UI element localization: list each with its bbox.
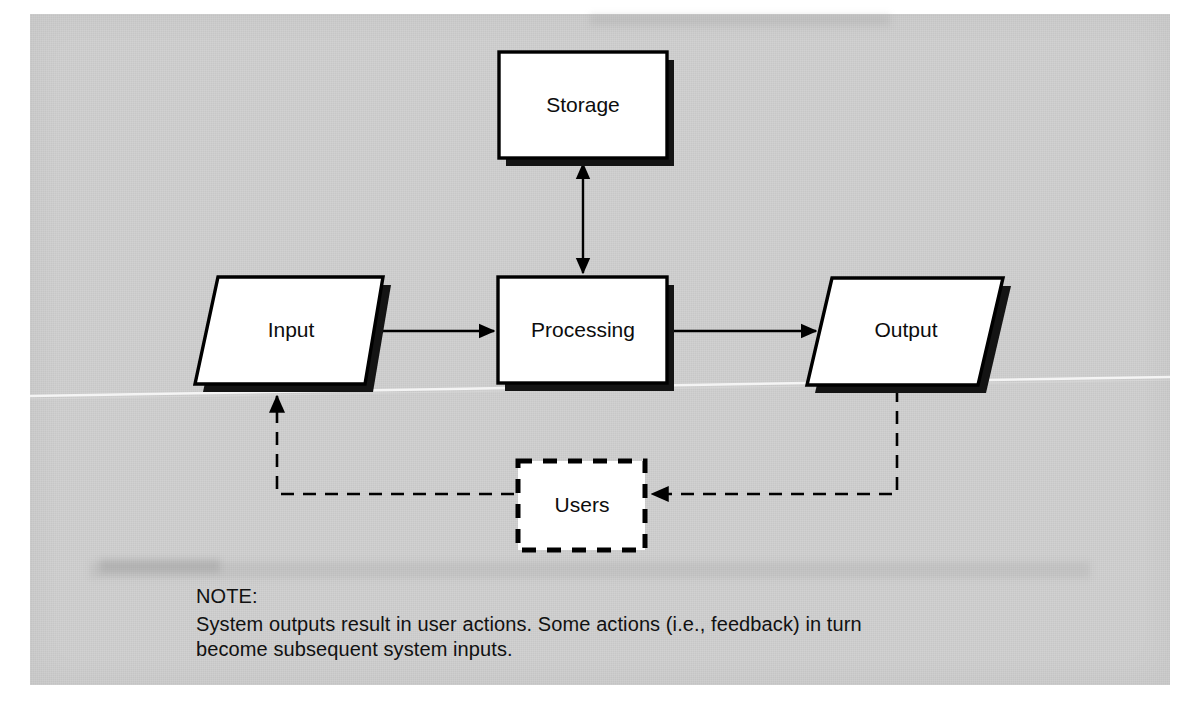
input-label: Input bbox=[268, 318, 315, 341]
node-output[interactable]: Output bbox=[807, 278, 1011, 393]
edge-users-input bbox=[277, 396, 514, 494]
note-title: NOTE: bbox=[196, 584, 936, 609]
node-input[interactable]: Input bbox=[195, 277, 391, 392]
output-label: Output bbox=[874, 318, 937, 341]
node-users[interactable]: Users bbox=[518, 461, 645, 550]
edge-output-users bbox=[652, 389, 897, 494]
note-block: NOTE: System outputs result in user acti… bbox=[196, 584, 936, 662]
storage-label: Storage bbox=[546, 93, 620, 116]
note-body: System outputs result in user actions. S… bbox=[196, 612, 936, 662]
page-root: Storage Input Processing Output Users NO bbox=[0, 0, 1199, 719]
processing-label: Processing bbox=[531, 318, 635, 341]
users-label: Users bbox=[555, 493, 610, 516]
node-processing[interactable]: Processing bbox=[498, 277, 674, 391]
node-storage[interactable]: Storage bbox=[499, 52, 674, 166]
